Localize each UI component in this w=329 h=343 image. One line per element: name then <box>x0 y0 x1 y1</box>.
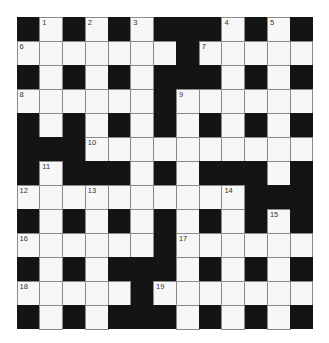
crossword-cell[interactable] <box>221 281 245 306</box>
crossword-cell[interactable]: 12 <box>17 185 41 210</box>
crossword-cell[interactable] <box>290 41 314 66</box>
crossword-cell[interactable] <box>267 305 291 330</box>
crossword-cell[interactable] <box>176 137 200 162</box>
crossword-cell[interactable]: 13 <box>85 185 109 210</box>
crossword-cell[interactable] <box>267 137 291 162</box>
crossword-cell[interactable] <box>176 281 200 306</box>
crossword-cell[interactable] <box>62 41 86 66</box>
crossword-cell[interactable] <box>108 137 132 162</box>
crossword-cell[interactable]: 9 <box>176 89 200 114</box>
crossword-cell[interactable] <box>85 233 109 258</box>
crossword-cell[interactable] <box>221 137 245 162</box>
crossword-cell[interactable] <box>244 281 268 306</box>
crossword-cell[interactable] <box>244 89 268 114</box>
crossword-cell[interactable] <box>199 281 223 306</box>
crossword-cell[interactable] <box>39 185 63 210</box>
crossword-cell[interactable] <box>267 89 291 114</box>
crossword-cell[interactable] <box>130 113 154 138</box>
crossword-cell[interactable] <box>62 89 86 114</box>
crossword-cell[interactable]: 6 <box>17 41 41 66</box>
crossword-cell[interactable] <box>221 209 245 234</box>
crossword-cell[interactable] <box>108 89 132 114</box>
crossword-cell[interactable] <box>244 41 268 66</box>
crossword-cell[interactable] <box>221 257 245 282</box>
crossword-cell[interactable] <box>267 161 291 186</box>
crossword-cell[interactable]: 17 <box>176 233 200 258</box>
crossword-cell[interactable] <box>62 233 86 258</box>
crossword-cell[interactable]: 1 <box>39 17 63 42</box>
crossword-cell[interactable] <box>130 161 154 186</box>
crossword-cell[interactable]: 7 <box>199 41 223 66</box>
crossword-cell[interactable] <box>221 113 245 138</box>
crossword-cell[interactable] <box>176 185 200 210</box>
crossword-cell[interactable] <box>39 209 63 234</box>
crossword-cell[interactable]: 11 <box>39 161 63 186</box>
crossword-cell[interactable] <box>130 185 154 210</box>
crossword-cell[interactable] <box>108 41 132 66</box>
crossword-cell[interactable] <box>85 209 109 234</box>
crossword-cell[interactable]: 4 <box>221 17 245 42</box>
crossword-cell[interactable] <box>290 89 314 114</box>
crossword-cell[interactable] <box>221 233 245 258</box>
crossword-cell[interactable] <box>199 89 223 114</box>
crossword-cell[interactable] <box>62 185 86 210</box>
crossword-cell[interactable] <box>85 89 109 114</box>
crossword-cell[interactable] <box>221 89 245 114</box>
crossword-cell[interactable] <box>39 65 63 90</box>
crossword-cell[interactable] <box>221 305 245 330</box>
crossword-cell[interactable] <box>130 89 154 114</box>
crossword-cell[interactable] <box>130 65 154 90</box>
crossword-cell[interactable] <box>85 257 109 282</box>
crossword-cell[interactable] <box>85 41 109 66</box>
crossword-cell[interactable] <box>199 233 223 258</box>
crossword-cell[interactable] <box>130 209 154 234</box>
crossword-cell[interactable]: 5 <box>267 17 291 42</box>
crossword-cell[interactable] <box>244 137 268 162</box>
crossword-cell[interactable] <box>108 281 132 306</box>
crossword-cell[interactable] <box>176 113 200 138</box>
crossword-cell[interactable] <box>39 89 63 114</box>
crossword-cell[interactable]: 8 <box>17 89 41 114</box>
crossword-cell[interactable]: 14 <box>221 185 245 210</box>
crossword-cell[interactable] <box>267 41 291 66</box>
crossword-cell[interactable] <box>85 65 109 90</box>
crossword-cell[interactable] <box>290 233 314 258</box>
crossword-cell[interactable] <box>108 185 132 210</box>
crossword-cell[interactable] <box>85 113 109 138</box>
crossword-cell[interactable]: 10 <box>85 137 109 162</box>
crossword-cell[interactable] <box>267 257 291 282</box>
crossword-cell[interactable]: 3 <box>130 17 154 42</box>
crossword-cell[interactable] <box>221 65 245 90</box>
crossword-cell[interactable] <box>221 41 245 66</box>
crossword-cell[interactable] <box>290 281 314 306</box>
crossword-cell[interactable] <box>153 185 177 210</box>
crossword-cell[interactable]: 18 <box>17 281 41 306</box>
crossword-cell[interactable] <box>199 185 223 210</box>
crossword-cell[interactable] <box>39 305 63 330</box>
crossword-cell[interactable] <box>199 137 223 162</box>
crossword-cell[interactable] <box>130 41 154 66</box>
crossword-cell[interactable] <box>267 113 291 138</box>
crossword-cell[interactable] <box>39 233 63 258</box>
crossword-cell[interactable] <box>153 41 177 66</box>
crossword-cell[interactable] <box>130 233 154 258</box>
crossword-cell[interactable] <box>176 161 200 186</box>
crossword-cell[interactable] <box>176 257 200 282</box>
crossword-cell[interactable]: 19 <box>153 281 177 306</box>
crossword-cell[interactable] <box>108 233 132 258</box>
crossword-cell[interactable] <box>267 281 291 306</box>
crossword-cell[interactable] <box>153 137 177 162</box>
crossword-cell[interactable] <box>244 233 268 258</box>
crossword-cell[interactable] <box>290 137 314 162</box>
crossword-cell[interactable] <box>85 305 109 330</box>
crossword-cell[interactable] <box>39 41 63 66</box>
crossword-cell[interactable] <box>267 65 291 90</box>
crossword-cell[interactable] <box>39 113 63 138</box>
crossword-cell[interactable] <box>130 137 154 162</box>
crossword-cell[interactable]: 15 <box>267 209 291 234</box>
crossword-cell[interactable] <box>39 281 63 306</box>
crossword-cell[interactable] <box>85 281 109 306</box>
crossword-cell[interactable] <box>39 257 63 282</box>
crossword-cell[interactable] <box>176 209 200 234</box>
crossword-cell[interactable]: 16 <box>17 233 41 258</box>
